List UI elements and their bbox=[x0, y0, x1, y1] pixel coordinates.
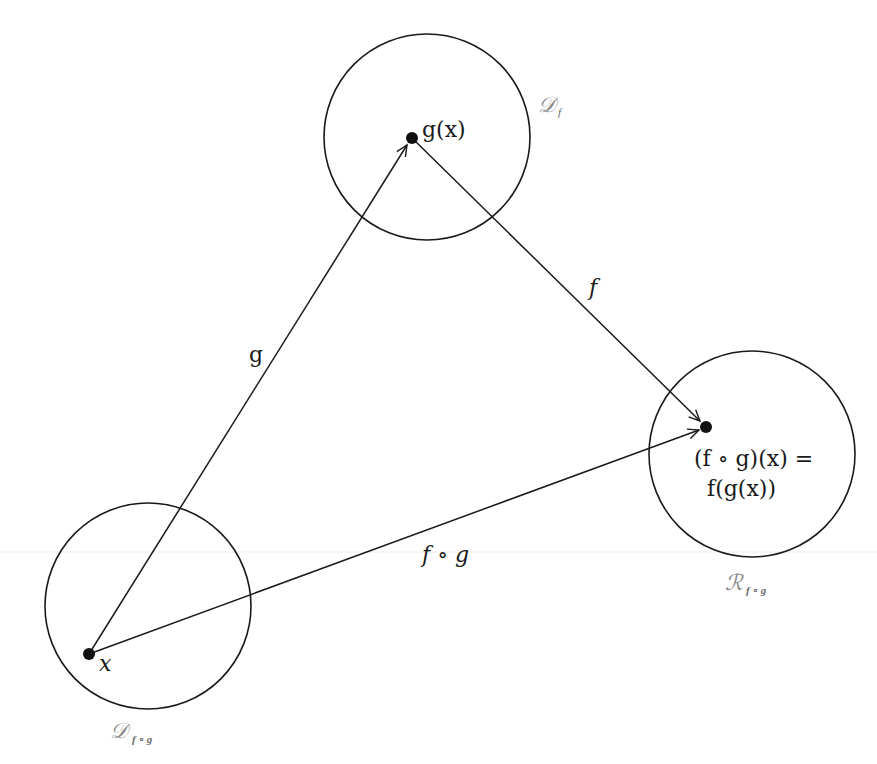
point-fgx-label-line2: f(g(x)) bbox=[707, 476, 776, 501]
arrow-f-label: f bbox=[587, 275, 601, 300]
composition-diagram: x g(x) (f ∘ g)(x) = f(g(x)) g f f ∘ g 𝒟 … bbox=[0, 0, 877, 764]
point-gx-label: g(x) bbox=[422, 117, 466, 142]
point-x-label: x bbox=[99, 651, 112, 676]
domain-fog-label: 𝒟 f ∘ g bbox=[110, 718, 153, 745]
domain-f-label: 𝒟 f bbox=[538, 92, 563, 118]
arrow-fog bbox=[89, 430, 699, 654]
svg-text:f: f bbox=[558, 106, 563, 118]
range-fog-label: ℛ f ∘ g bbox=[725, 570, 767, 596]
arrow-fog-label: f ∘ g bbox=[420, 542, 469, 567]
arrow-g bbox=[89, 145, 407, 654]
svg-text:𝒟: 𝒟 bbox=[110, 718, 132, 743]
arrow-g-label: g bbox=[249, 342, 263, 367]
arrow-f bbox=[412, 138, 700, 421]
svg-text:𝒟: 𝒟 bbox=[538, 92, 560, 117]
svg-text:ℛ: ℛ bbox=[725, 570, 744, 595]
point-fgx-label-line1: (f ∘ g)(x) = bbox=[694, 446, 813, 471]
point-fgx bbox=[700, 421, 712, 433]
svg-text:f ∘ g: f ∘ g bbox=[746, 584, 767, 596]
point-x bbox=[83, 648, 95, 660]
svg-text:f ∘ g: f ∘ g bbox=[132, 733, 153, 745]
point-gx bbox=[406, 132, 418, 144]
